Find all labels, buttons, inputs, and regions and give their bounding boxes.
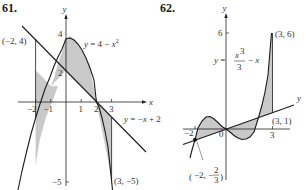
line-label-62: y <box>296 93 301 103</box>
svg-text:3: 3 <box>240 46 245 56</box>
y-tick-label-4: 4 <box>58 29 63 39</box>
y-tick-label-6-62: 6 <box>218 28 223 38</box>
shaded-region-62b <box>226 118 259 140</box>
y-axis-label-62: y <box>222 3 227 13</box>
y-axis-arrow-61 <box>64 14 67 19</box>
svg-text:2: 2 <box>214 165 219 175</box>
x-tick-label-3-62: 3 <box>270 130 275 140</box>
y-tick-label-m5: −5 <box>52 177 62 187</box>
curve-label-61: y = 4 − x2 <box>83 38 119 49</box>
point-label-3-m5: (3, −5) <box>114 176 139 186</box>
x-tick-label-m1: −1 <box>44 104 54 114</box>
x-tick-label-3: 3 <box>109 104 114 114</box>
x-tick-label-m2: −2 <box>27 104 37 114</box>
problem-number-62: 62. <box>160 1 175 15</box>
svg-text:3: 3 <box>237 62 242 72</box>
svg-text:−2, −: −2, − <box>194 170 213 180</box>
svg-text:(: ( <box>189 172 192 182</box>
svg-text:): ) <box>220 172 223 182</box>
x-axis-arrow-61 <box>142 100 147 103</box>
point-marker-m2 <box>193 138 197 142</box>
svg-text:y =: y = <box>213 55 225 65</box>
point-label-3-1: (3, 1) <box>272 116 292 126</box>
figure-canvas: 61. y x −2 −1 1 2 3 4 2 −5 <box>0 0 306 190</box>
figure-61: 61. y x −2 −1 1 2 3 4 2 −5 <box>2 1 161 190</box>
y-axis-arrow-62 <box>224 13 227 18</box>
point-label-m2-4: (−2, 4) <box>2 36 27 46</box>
problem-number-61: 61. <box>2 1 17 15</box>
svg-text:− x: − x <box>248 55 259 65</box>
point-label-3-6: (3, 6) <box>275 29 295 39</box>
x-tick-label-m2-62: −2 <box>184 128 194 138</box>
leader-line-62 <box>197 142 203 160</box>
x-axis-label-61: x <box>148 97 153 107</box>
y-tick-label-2: 2 <box>58 68 63 78</box>
x-tick-label-1: 1 <box>79 104 84 114</box>
svg-text:x: x <box>234 50 239 60</box>
y-axis-label-61: y <box>62 4 67 14</box>
curve-label-62: y = x 3 3 − x <box>213 46 259 72</box>
cubic-curve-62 <box>190 33 272 158</box>
svg-text:3: 3 <box>214 175 219 185</box>
line-label-61: y = −x + 2 <box>123 114 161 124</box>
figure-62: 62. y −2 0 3 6 (3, 6) (3, 1) <box>160 1 301 185</box>
point-label-m2-m2over3: ( −2, − 2 3 ) <box>189 165 223 185</box>
